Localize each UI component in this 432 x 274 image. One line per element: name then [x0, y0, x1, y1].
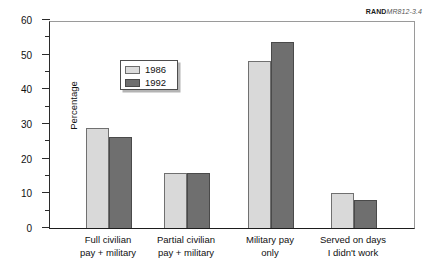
bar-1986-group-4	[331, 193, 354, 228]
y-axis-tick-major: 10	[42, 192, 50, 193]
y-axis-tick-major: 50	[42, 54, 50, 55]
y-axis-tick-minor	[45, 36, 50, 37]
bar-1992-group-1	[109, 137, 132, 228]
y-axis-tick-label: 0	[26, 223, 32, 234]
y-axis-tick-label: 40	[21, 84, 32, 95]
y-axis-tick-minor	[45, 71, 50, 72]
legend-label-1992: 1992	[145, 78, 166, 88]
bar-1992-group-4	[354, 200, 377, 228]
legend-swatch-1986	[125, 66, 140, 74]
bar-1992-group-2	[187, 173, 210, 228]
legend-swatch-1992	[125, 79, 140, 87]
y-axis-tick-major: 30	[42, 123, 50, 124]
y-axis-tick-major: 20	[42, 158, 50, 159]
document-id-label: MR812-3.4	[386, 8, 422, 15]
y-axis-tick-minor	[45, 175, 50, 176]
y-axis-tick-minor	[45, 106, 50, 107]
y-axis-tick-major: 60	[42, 19, 50, 20]
x-axis-label-group-4: Served on days I didn't work	[303, 234, 403, 259]
bar-1986-group-3	[248, 61, 271, 228]
bar-1986-group-2	[164, 173, 187, 228]
y-axis-tick-label: 30	[21, 119, 32, 130]
legend-item-1986: 1986	[125, 64, 177, 75]
y-axis-tick-label: 50	[21, 49, 32, 60]
y-axis-tick-minor	[45, 210, 50, 211]
y-axis-tick-label: 60	[21, 15, 32, 26]
bar-1992-group-3	[271, 42, 294, 228]
legend-item-1992: 1992	[125, 77, 177, 88]
chart-plot-area: Percentage 0102030405060 19861992	[49, 21, 415, 229]
y-axis-title: Percentage	[68, 56, 79, 156]
legend-label-1986: 1986	[145, 65, 166, 75]
y-axis-tick-major: 0	[42, 227, 50, 228]
bar-1986-group-1	[86, 128, 109, 228]
source-credit: RANDMR812-3.4	[366, 7, 422, 16]
rand-brand-label: RAND	[366, 8, 387, 15]
chart-legend: 19861992	[120, 60, 178, 90]
y-axis-tick-minor	[45, 140, 50, 141]
y-axis-tick-label: 10	[21, 188, 32, 199]
y-axis-tick-label: 20	[21, 153, 32, 164]
y-axis-tick-major: 40	[42, 88, 50, 89]
